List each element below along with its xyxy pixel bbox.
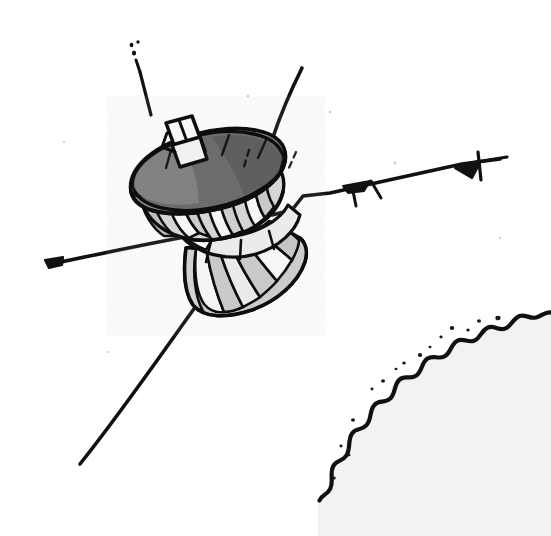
boom-upper-left-dash-3 bbox=[136, 40, 139, 43]
boom-upper-left-dash-2 bbox=[130, 43, 134, 47]
boom-upper-left-dash-1 bbox=[132, 50, 136, 55]
boom-left-end-cap bbox=[45, 257, 63, 268]
illustration-canvas bbox=[0, 0, 551, 536]
spacecraft-drawing-svg bbox=[0, 0, 551, 536]
